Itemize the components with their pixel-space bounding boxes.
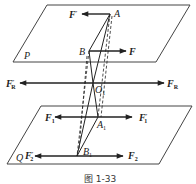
dashed-line-a-a1 [98,14,110,117]
force-label-f-prime: F′ [68,9,78,20]
force-label-fr-prime: F′R [5,78,16,90]
segment-a-o1 [93,14,110,83]
segment-a-b [89,14,110,51]
figure-caption: 图 1-33 [84,174,116,184]
point-b1-label: B1 [83,146,92,158]
diagram-canvas: P Q A B O1 A1 B1 F′ F F′R FR F1 F′1 F′2 … [0,0,196,184]
point-a1-label: A1 [96,119,106,131]
dashed-line-b-b1-2 [79,56,87,150]
plane-q-label: Q [16,152,24,163]
dashed-line-a-a1-2 [101,16,112,117]
force-label-f2-prime: F′2 [24,150,34,162]
force-label-f: F [128,46,136,57]
force-label-f1: F1 [44,112,55,124]
plane-p-label: P [23,50,30,61]
force-label-fr: FR [166,78,179,90]
force-label-f1-prime: F′1 [138,112,148,124]
point-o1-label: O1 [95,84,105,96]
point-b-label: B [79,46,85,57]
segment-b-o1 [89,51,93,83]
force-label-f2: F2 [127,150,138,162]
point-a-label: A [113,8,121,19]
